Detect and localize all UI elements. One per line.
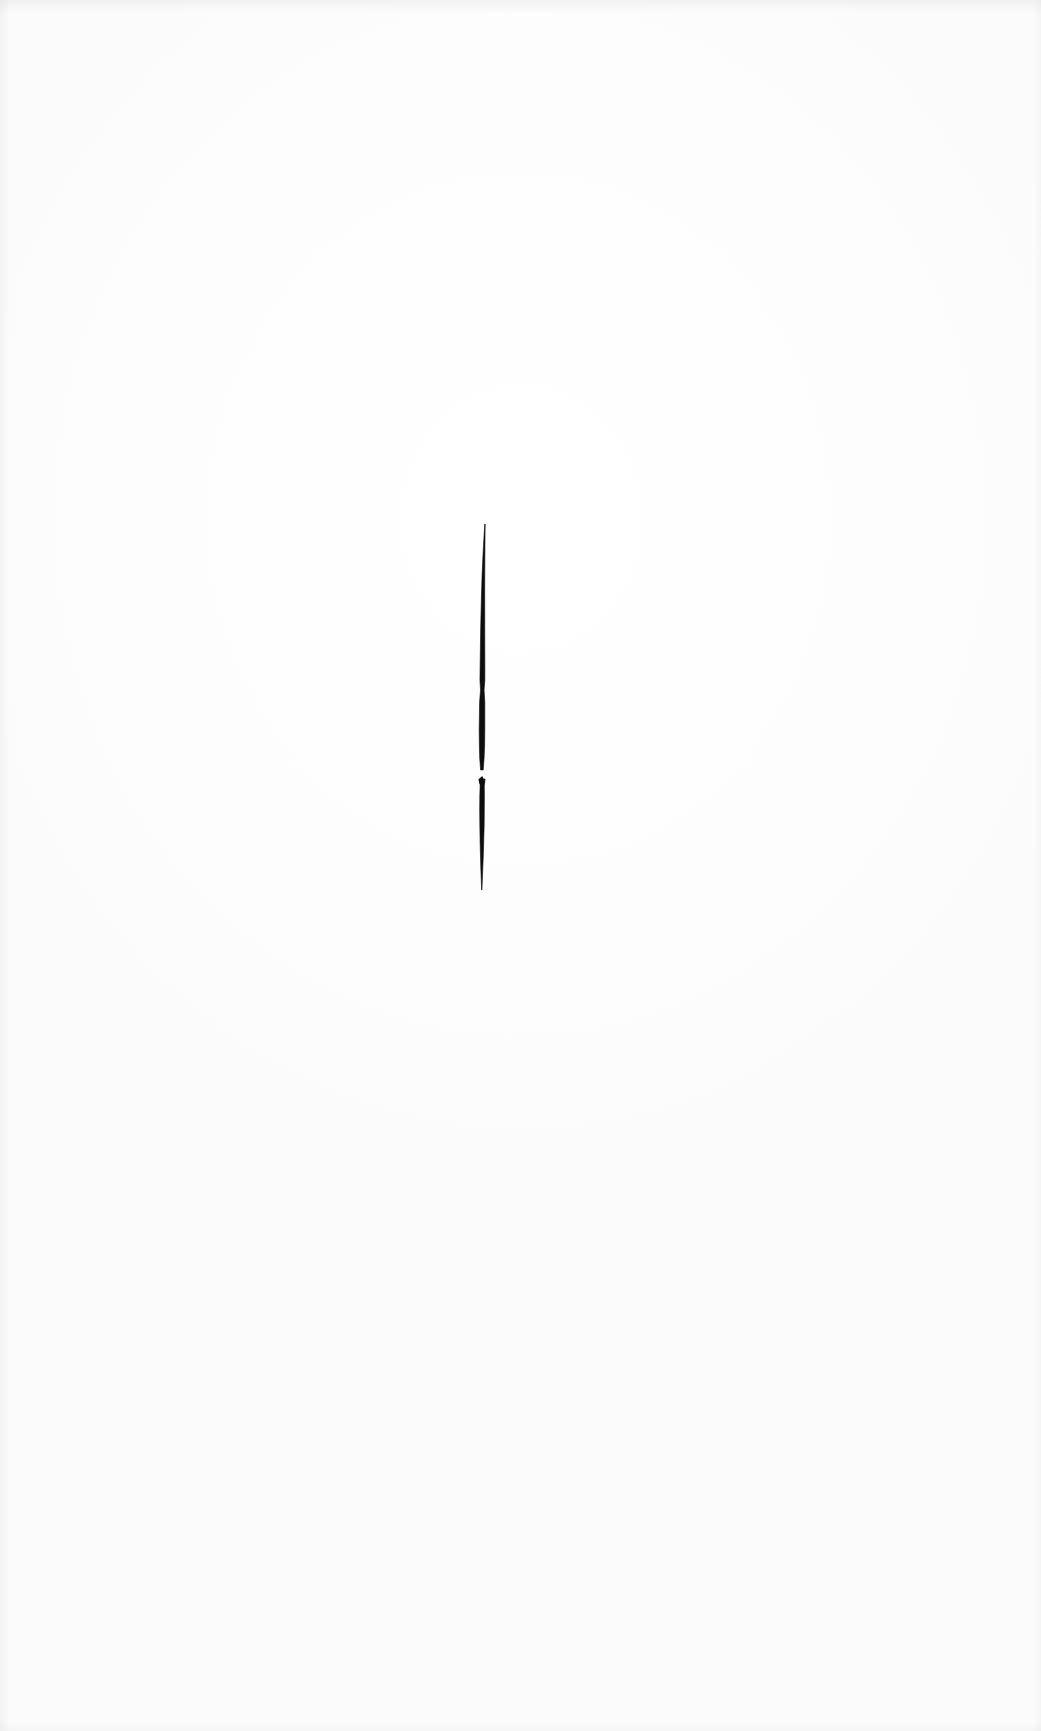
ink-stroke-group: [478, 524, 485, 890]
ink-mark-artwork: [440, 500, 530, 910]
ink-stroke-svg: [440, 500, 530, 910]
scanned-page: [0, 0, 1041, 1731]
scan-edge-bottom: [0, 1721, 1041, 1731]
scan-edge-top: [0, 0, 1041, 14]
scan-edge-left: [0, 0, 10, 1731]
scan-edge-right: [1033, 0, 1041, 1731]
ink-stroke-node: [478, 776, 484, 787]
ink-stroke-lower: [480, 779, 485, 890]
ink-stroke-upper: [479, 524, 485, 770]
